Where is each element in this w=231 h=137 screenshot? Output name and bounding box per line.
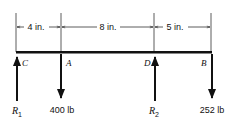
point-label-a: A [65,58,72,68]
beam [16,51,212,54]
point-label-b: B [201,58,207,68]
point-label-c: C [22,58,29,68]
point-label-d: D [143,58,151,68]
dimension-label-ca: 4 in. [27,22,44,32]
force-label-r1: R1 [11,105,22,118]
force-label-r2: R2 [148,105,159,118]
extension-lines [16,13,211,52]
dimension-label-db: 5 in. [166,22,183,32]
beam-diagram: 4 in. 8 in. 5 in. C A D B R1 400 lb R2 2… [0,0,231,137]
force-label-a: 400 lb [50,105,75,115]
force-label-b: 252 lb [200,105,225,115]
dimension-label-ad: 8 in. [99,22,116,32]
